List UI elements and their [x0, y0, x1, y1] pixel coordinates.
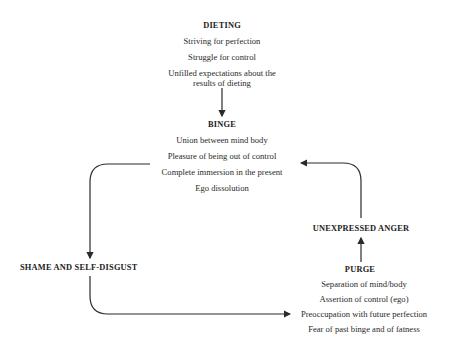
- purge-item: Separation of mind/body: [321, 279, 406, 290]
- arrow-binge-to-shame: [90, 164, 150, 258]
- binge-item: Ego dissolution: [195, 183, 249, 194]
- dieting-item: Striving for perfection: [184, 36, 261, 47]
- dieting-item: Struggle for control: [188, 52, 256, 63]
- dieting-title: DIETING: [203, 20, 241, 31]
- purge-item: Preoccupation with future perfection: [301, 309, 427, 320]
- binge-item: Union between mind body: [176, 135, 267, 146]
- node-anger-title: UNEXPRESSED ANGER: [313, 223, 410, 234]
- binge-item: Pleasure of being out of control: [168, 151, 277, 162]
- binge-title: BINGE: [208, 119, 236, 130]
- purge-item: Assertion of control (ego): [319, 294, 408, 305]
- dieting-item: results of dieting: [193, 78, 251, 89]
- arrow-anger-to-binge: [301, 163, 361, 218]
- binge-item: Complete immersion in the present: [162, 167, 283, 178]
- arrow-shame-to-purge: [90, 276, 290, 314]
- node-shame-title: SHAME AND SELF-DISGUST: [20, 262, 138, 273]
- purge-item: Fear of past binge and of fatness: [308, 324, 420, 335]
- purge-title: PURGE: [345, 264, 375, 275]
